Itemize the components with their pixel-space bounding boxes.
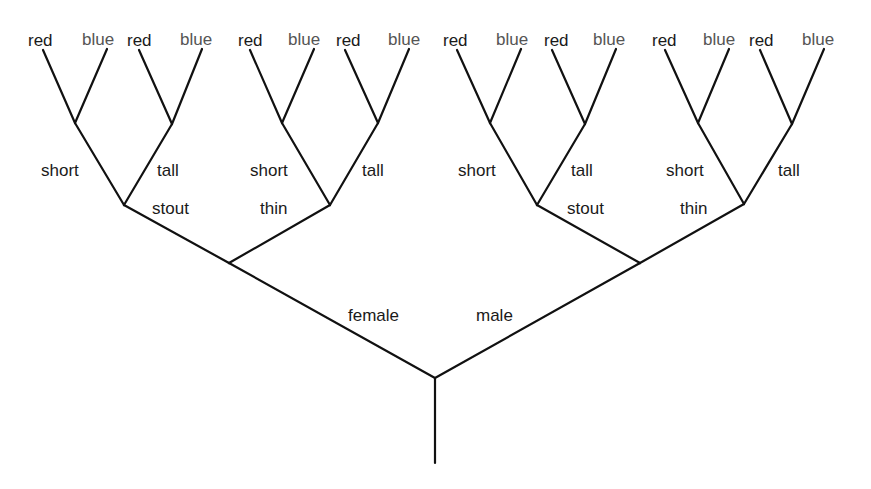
edge-leaf-red — [345, 50, 378, 123]
edge-short — [698, 123, 744, 204]
edge-leaf-red — [760, 50, 792, 124]
leaf-label-blue: blue — [180, 30, 212, 49]
branch-label-tall: tall — [571, 161, 593, 180]
leaf-label-red: red — [336, 31, 361, 50]
branch-label-tall: tall — [362, 161, 384, 180]
branch-label-short: short — [41, 161, 79, 180]
leaf-label-red: red — [443, 31, 468, 50]
edge-leaf-blue — [172, 49, 202, 124]
branch-label-thin: thin — [260, 199, 287, 218]
edge-short — [75, 123, 124, 205]
branch-label-short: short — [458, 161, 496, 180]
leaf-label-blue: blue — [288, 30, 320, 49]
branch-label-short: short — [250, 161, 288, 180]
decision-tree-diagram: femalemalestoutthinstoutthinshorttallsho… — [0, 0, 871, 489]
edge-leaf-blue — [490, 49, 521, 123]
leaf-label-red: red — [238, 31, 263, 50]
edge-short — [282, 123, 330, 205]
branch-label-tall: tall — [157, 161, 179, 180]
edge-short — [490, 123, 537, 205]
leaf-label-red: red — [127, 31, 152, 50]
edge-female — [229, 263, 435, 378]
edge-leaf-blue — [75, 49, 107, 123]
leaf-label-blue: blue — [496, 30, 528, 49]
edge-leaf-red — [43, 50, 75, 123]
leaf-label-red: red — [749, 31, 774, 50]
edge-leaf-blue — [792, 49, 824, 124]
edge-leaf-blue — [698, 49, 729, 123]
tree-edges — [43, 49, 824, 463]
leaf-label-blue: blue — [82, 30, 114, 49]
leaf-label-blue: blue — [703, 30, 735, 49]
leaf-label-red: red — [544, 31, 569, 50]
branch-label-short: short — [666, 161, 704, 180]
leaf-label-red: red — [28, 31, 53, 50]
edge-leaf-red — [250, 50, 282, 123]
branch-label-stout: stout — [152, 199, 189, 218]
branch-label-stout: stout — [567, 199, 604, 218]
branch-label-female: female — [348, 306, 399, 325]
branch-label-tall: tall — [778, 161, 800, 180]
branch-label-thin: thin — [680, 199, 707, 218]
edge-leaf-red — [457, 50, 490, 123]
branch-label-male: male — [476, 306, 513, 325]
edge-leaf-blue — [585, 49, 616, 124]
leaf-label-blue: blue — [593, 30, 625, 49]
edge-male — [435, 263, 640, 378]
leaf-label-red: red — [652, 31, 677, 50]
edge-leaf-red — [139, 50, 172, 124]
edge-leaf-red — [552, 50, 585, 124]
edge-leaf-blue — [282, 49, 314, 123]
leaf-label-blue: blue — [388, 30, 420, 49]
edge-leaf-blue — [378, 49, 409, 123]
leaf-label-blue: blue — [802, 30, 834, 49]
edge-leaf-red — [665, 50, 698, 123]
